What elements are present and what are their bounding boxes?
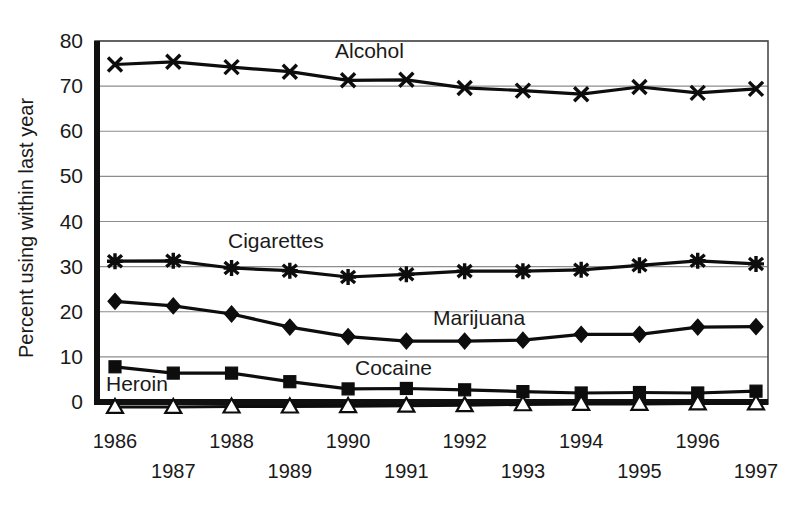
marker-cocaine-1990: [342, 383, 354, 395]
marker-cocaine-1992: [459, 384, 471, 396]
marker-cigarettes-1996: [690, 253, 706, 269]
marker-cigarettes-1992: [457, 263, 473, 279]
series-label-marijuana: Marijuana: [433, 306, 526, 329]
marker-cigarettes-1994: [573, 262, 589, 278]
x-tick-1986: 1986: [93, 430, 138, 452]
y-tick-0: 0: [71, 390, 83, 413]
series-label-cigarettes: Cigarettes: [228, 229, 324, 252]
x-tick-1991: 1991: [384, 460, 429, 482]
x-tick-1995: 1995: [617, 460, 662, 482]
x-tick-1987: 1987: [151, 460, 196, 482]
marker-cigarettes-1991: [398, 266, 414, 282]
x-tick-1988: 1988: [209, 430, 254, 452]
y-tick-70: 70: [60, 74, 83, 97]
y-tick-50: 50: [60, 164, 83, 187]
x-tick-1993: 1993: [501, 460, 546, 482]
y-tick-60: 60: [60, 119, 83, 142]
x-tick-1996: 1996: [675, 430, 720, 452]
x-tick-1992: 1992: [442, 430, 487, 452]
marker-cigarettes-1986: [107, 253, 123, 269]
series-label-heroin: Heroin: [106, 372, 168, 395]
series-label-alcohol: Alcohol: [335, 39, 404, 62]
x-tick-1997: 1997: [734, 460, 779, 482]
y-tick-80: 80: [60, 29, 83, 52]
x-tick-1990: 1990: [326, 430, 371, 452]
x-tick-1994: 1994: [559, 430, 604, 452]
marker-cigarettes-1997: [748, 256, 764, 272]
marker-cigarettes-1988: [224, 260, 240, 276]
series-label-cocaine: Cocaine: [355, 356, 432, 379]
y-axis-tick-labels: 01020304050607080: [60, 29, 83, 413]
y-tick-20: 20: [60, 300, 83, 323]
chart-figure: Percent using within last year 010203040…: [0, 0, 811, 505]
x-tick-1989: 1989: [268, 460, 313, 482]
marker-cocaine-1986: [109, 361, 121, 373]
marker-cocaine-1991: [400, 382, 412, 394]
marker-cocaine-1987: [167, 367, 179, 379]
marker-cigarettes-1989: [282, 263, 298, 279]
y-tick-40: 40: [60, 210, 83, 233]
y-axis-title: Percent using within last year: [15, 98, 37, 358]
marker-cigarettes-1990: [340, 269, 356, 285]
marker-cocaine-1988: [226, 367, 238, 379]
line-chart: Percent using within last year 010203040…: [0, 0, 811, 505]
marker-cigarettes-1995: [631, 257, 647, 273]
y-tick-10: 10: [60, 345, 83, 368]
marker-cigarettes-1987: [165, 253, 181, 269]
y-tick-30: 30: [60, 255, 83, 278]
marker-cigarettes-1993: [515, 263, 531, 279]
marker-cocaine-1989: [284, 376, 296, 388]
